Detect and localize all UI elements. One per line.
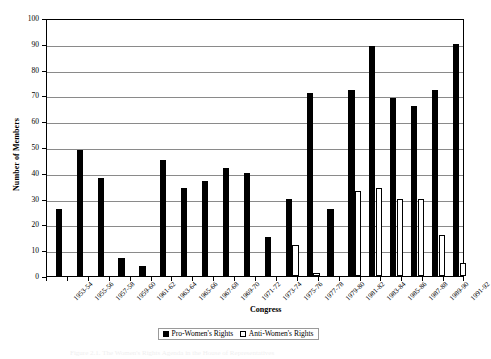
bar-pro-1981-82 bbox=[348, 90, 354, 276]
x-axis-tick-label: 1977-78 bbox=[323, 281, 344, 302]
bar-pro-1955-56 bbox=[77, 150, 83, 276]
y-axis-tick-label: 0 bbox=[0, 273, 39, 281]
x-axis-tick-label: 1953-54 bbox=[73, 281, 94, 302]
bar-pro-1963-64 bbox=[160, 160, 166, 276]
bar-pro-1991-92 bbox=[453, 44, 459, 276]
bar-pro-1989-90 bbox=[432, 90, 438, 276]
legend-label: Anti-Women's Rights bbox=[249, 330, 314, 338]
y-axis-tick-label: 30 bbox=[0, 196, 39, 204]
y-axis-tick-label: 90 bbox=[0, 41, 39, 49]
y-axis-tick-label: 80 bbox=[0, 67, 39, 75]
x-axis-tick-label: 1983-84 bbox=[386, 281, 407, 302]
chart-legend: Pro-Women's RightsAnti-Women's Rights bbox=[158, 328, 319, 340]
legend-entry-pro: Pro-Women's Rights bbox=[163, 330, 233, 338]
bar-pro-1979-80 bbox=[327, 209, 333, 276]
bar-pro-1987-88 bbox=[411, 106, 417, 276]
plot-area bbox=[46, 19, 464, 277]
legend-entry-anti: Anti-Women's Rights bbox=[240, 330, 313, 338]
bar-pro-1985-86 bbox=[390, 98, 396, 276]
bar-pro-1973-74 bbox=[265, 237, 271, 276]
y-axis-tick-label: 10 bbox=[0, 247, 39, 255]
bar-pro-1961-62 bbox=[139, 266, 145, 276]
y-axis-tick-label: 70 bbox=[0, 93, 39, 101]
x-axis-tick-label: 1975-76 bbox=[303, 281, 324, 302]
x-axis-tick-label: 1981-82 bbox=[365, 281, 386, 302]
x-axis-tick-label: 1979-80 bbox=[344, 281, 365, 302]
bar-pro-1983-84 bbox=[369, 46, 375, 276]
x-axis-tick-label: 1955-56 bbox=[94, 281, 115, 302]
x-axis-tick-label: 1963-64 bbox=[177, 281, 198, 302]
bar-pro-1969-70 bbox=[223, 168, 229, 276]
bar-anti-1987-88 bbox=[418, 199, 424, 276]
x-axis-tick-label: 1967-68 bbox=[219, 281, 240, 302]
x-axis-tick-label: 1969-70 bbox=[240, 281, 261, 302]
bar-pro-1975-76 bbox=[286, 199, 292, 276]
bar-anti-1989-90 bbox=[439, 235, 445, 276]
bar-anti-1991-92 bbox=[460, 263, 466, 276]
bar-anti-1981-82 bbox=[355, 191, 361, 276]
bar-pro-1957-58 bbox=[98, 178, 104, 276]
y-axis-tick-label: 50 bbox=[0, 144, 39, 152]
bar-anti-1985-86 bbox=[397, 199, 403, 276]
x-axis-tick-label: 1971-72 bbox=[261, 281, 282, 302]
x-axis-tick-label: 1985-86 bbox=[407, 281, 428, 302]
bar-anti-1977-78 bbox=[313, 273, 319, 276]
bar-layer bbox=[47, 20, 463, 276]
bar-pro-1959-60 bbox=[118, 258, 124, 276]
bar-pro-1965-66 bbox=[181, 188, 187, 276]
open-square-icon bbox=[240, 331, 246, 337]
y-axis-tick-label: 60 bbox=[0, 118, 39, 126]
y-axis-tick-label: 20 bbox=[0, 222, 39, 230]
y-axis-tick-container: 0102030405060708090100 bbox=[0, 19, 46, 277]
x-axis-tick-label: 1973-74 bbox=[282, 281, 303, 302]
x-axis-tick-label: 1987-88 bbox=[428, 281, 449, 302]
bar-pro-1977-78 bbox=[307, 93, 313, 276]
y-axis-tick-label: 40 bbox=[0, 170, 39, 178]
bar-pro-1953-54 bbox=[56, 209, 62, 276]
x-axis-tick-label: 1991-92 bbox=[470, 281, 491, 302]
filled-square-icon bbox=[163, 331, 169, 337]
x-axis-tick-label: 1989-90 bbox=[449, 281, 470, 302]
x-axis-tick-label: 1959-60 bbox=[135, 281, 156, 302]
legend-label: Pro-Women's Rights bbox=[172, 330, 234, 338]
bar-pro-1967-68 bbox=[202, 181, 208, 276]
figure-caption: Figure 2.1. The Women's Rights Agenda in… bbox=[70, 349, 410, 357]
x-axis-tick-label: 1961-62 bbox=[156, 281, 177, 302]
bar-anti-1983-84 bbox=[376, 188, 382, 276]
x-axis-tick-label: 1957-58 bbox=[114, 281, 135, 302]
y-axis-tick-label: 100 bbox=[0, 15, 39, 23]
bar-pro-1971-72 bbox=[244, 173, 250, 276]
x-axis-tick-label: 1965-66 bbox=[198, 281, 219, 302]
x-axis-title: Congress bbox=[250, 305, 281, 314]
bar-anti-1975-76 bbox=[292, 245, 298, 276]
